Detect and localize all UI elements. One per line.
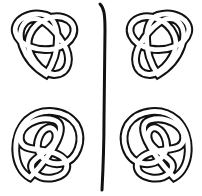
mirror-divider-line (0, 0, 202, 196)
